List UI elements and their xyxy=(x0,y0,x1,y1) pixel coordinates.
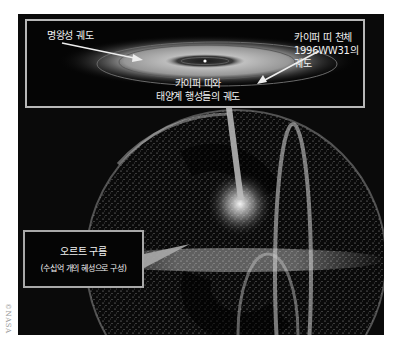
oort-cloud-subtitle: (수십억 개의 혜성으로 구성) xyxy=(25,262,142,275)
oort-cloud-diagram: 명왕성 궤도 카이퍼 띠 천체 1996WW31의 궤도 카이퍼 띠와 태양계 … xyxy=(18,14,384,335)
kuiper-label-line1: 카이퍼 띠와 xyxy=(27,77,363,90)
kbo-label-line3: 궤도 xyxy=(294,57,311,70)
kuiper-label-line2: 태양계 행성들의 궤도 xyxy=(27,90,363,103)
kbo-label-line2: 1996WW31의 xyxy=(294,44,358,57)
oort-cloud-title: 오르트 구름 xyxy=(25,245,142,258)
image-credit: ©NASA xyxy=(4,303,12,334)
oort-cloud-label-box: 오르트 구름 (수십억 개의 혜성으로 구성) xyxy=(23,230,144,288)
kbo-label-line1: 카이퍼 띠 천체 xyxy=(294,31,352,44)
pluto-orbit-label: 명왕성 궤도 xyxy=(47,29,93,42)
kuiper-belt-inset: 명왕성 궤도 카이퍼 띠 천체 1996WW31의 궤도 카이퍼 띠와 태양계 … xyxy=(25,19,365,108)
